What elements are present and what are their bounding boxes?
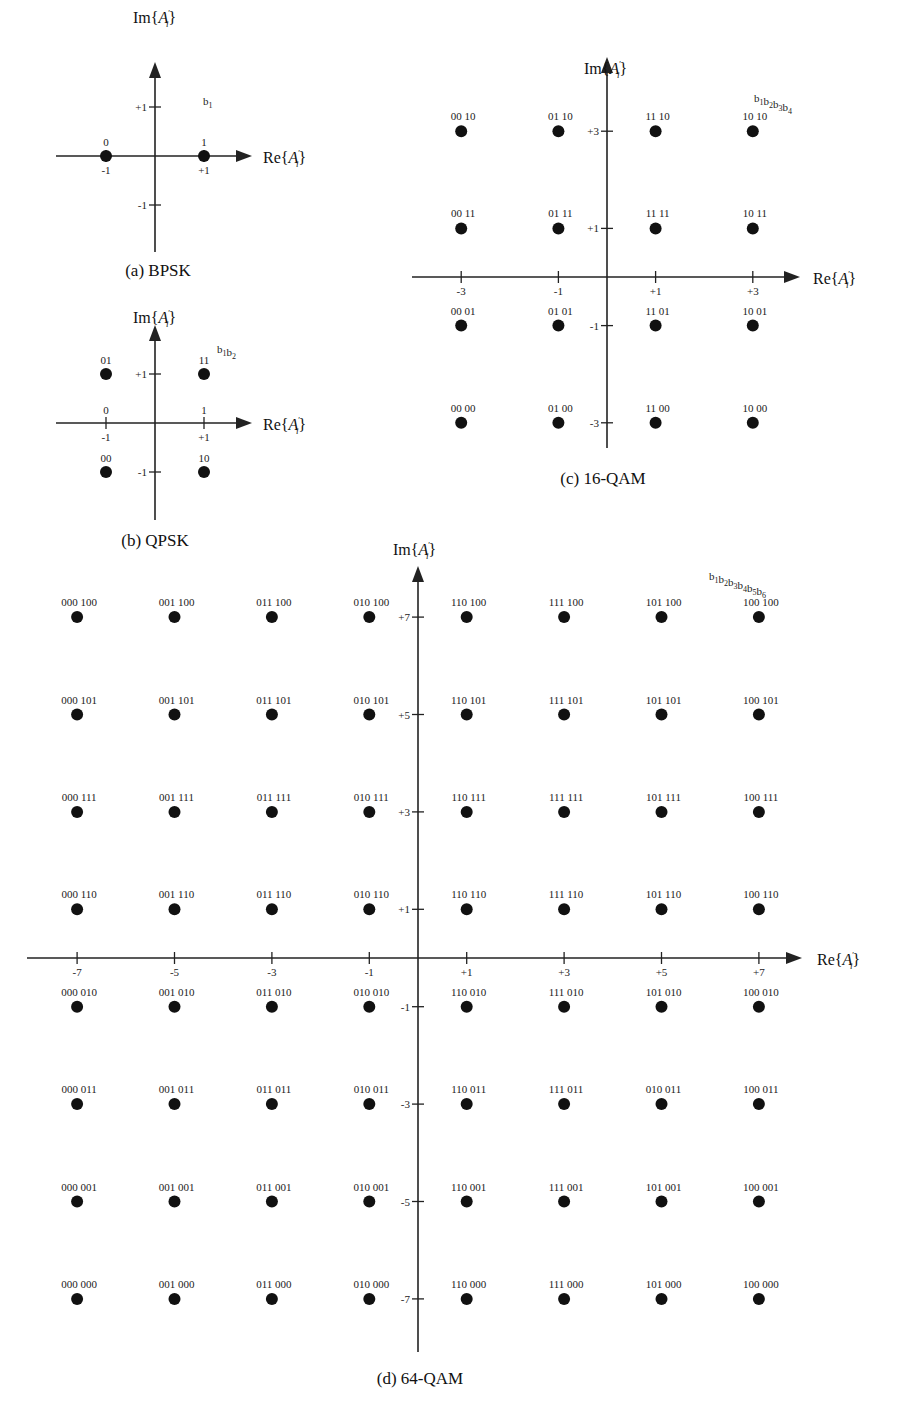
point-label: 110 110 bbox=[451, 888, 486, 900]
point-label: 111 001 bbox=[549, 1181, 584, 1193]
constellation-point bbox=[169, 1001, 181, 1013]
point-label: 01 11 bbox=[548, 207, 572, 219]
point-label: 11 00 bbox=[645, 402, 670, 414]
svg-text:Re{A′i}: Re{A′i} bbox=[263, 149, 306, 169]
point-label: 110 011 bbox=[451, 1083, 486, 1095]
constellation-point bbox=[461, 903, 473, 915]
x-tick-label: -1 bbox=[365, 966, 374, 978]
point-label: 111 011 bbox=[549, 1083, 584, 1095]
y-tick-label: +7 bbox=[398, 611, 410, 623]
constellation-point bbox=[71, 806, 83, 818]
constellation-point bbox=[461, 709, 473, 721]
constellation-point bbox=[266, 1293, 278, 1305]
x-tick-label: +3 bbox=[558, 966, 570, 978]
y-tick-label: -7 bbox=[401, 1293, 411, 1305]
point-label: 10 01 bbox=[742, 305, 767, 317]
y-axis-label: Im{A′i} bbox=[393, 541, 436, 561]
point-label: 101 101 bbox=[646, 694, 682, 706]
constellation-point bbox=[552, 222, 564, 234]
constellation-point bbox=[455, 222, 467, 234]
x-axis-arrow-icon bbox=[236, 150, 252, 162]
svg-text:b1b2: b1b2 bbox=[217, 343, 236, 361]
point-label: 111 000 bbox=[549, 1278, 584, 1290]
constellation-point bbox=[650, 417, 662, 429]
axis-bit-label: 1 bbox=[201, 404, 207, 416]
constellation-point bbox=[363, 903, 375, 915]
x-tick-label: +7 bbox=[753, 966, 765, 978]
point-label: 101 010 bbox=[646, 986, 682, 998]
point-label: 000 111 bbox=[62, 791, 97, 803]
y-tick-label: -1 bbox=[401, 1001, 410, 1013]
point-label: 011 110 bbox=[256, 888, 291, 900]
point-label: 111 110 bbox=[549, 888, 584, 900]
point-label: 000 001 bbox=[61, 1181, 97, 1193]
point-label: 101 111 bbox=[646, 791, 681, 803]
constellation-point bbox=[71, 1098, 83, 1110]
x-tick-label: +1 bbox=[198, 431, 210, 443]
x-tick-label: +3 bbox=[747, 285, 759, 297]
point-label: 110 001 bbox=[451, 1181, 486, 1193]
constellation-point bbox=[363, 1001, 375, 1013]
figure-caption: (a) BPSK bbox=[125, 261, 191, 280]
constellation-point bbox=[266, 1001, 278, 1013]
constellation-point bbox=[753, 903, 765, 915]
figure-caption: (d) 64-QAM bbox=[377, 1369, 463, 1388]
bit-order-label: b1 bbox=[203, 95, 213, 110]
y-tick-label: -5 bbox=[401, 1196, 411, 1208]
constellation-point bbox=[747, 125, 759, 137]
y-axis-arrow-icon bbox=[149, 62, 161, 78]
point-label: 001 110 bbox=[159, 888, 195, 900]
point-label: 100 110 bbox=[743, 888, 779, 900]
point-label: 01 00 bbox=[548, 402, 573, 414]
point-label: 100 000 bbox=[743, 1278, 779, 1290]
x-axis-label: Re{A′i} bbox=[817, 951, 860, 971]
y-tick-label: +1 bbox=[398, 903, 410, 915]
constellation-point bbox=[71, 1196, 83, 1208]
y-tick-label: -3 bbox=[590, 417, 600, 429]
constellation-point bbox=[363, 1098, 375, 1110]
constellation-point bbox=[71, 1001, 83, 1013]
constellation-point bbox=[650, 125, 662, 137]
point-label: 11 10 bbox=[645, 110, 670, 122]
point-label: 10 10 bbox=[742, 110, 767, 122]
svg-text:Im{A′i}: Im{A′i} bbox=[584, 60, 627, 80]
constellation-point bbox=[266, 1098, 278, 1110]
constellation-point bbox=[169, 709, 181, 721]
point-label: 000 010 bbox=[61, 986, 97, 998]
constellation-point bbox=[461, 1098, 473, 1110]
x-axis-arrow-icon bbox=[784, 271, 800, 283]
panel-bpsk: Im{A′i}Re{A′i}b1-1+1+1-101(a) BPSK bbox=[56, 9, 306, 280]
y-tick-label: +5 bbox=[398, 709, 410, 721]
constellation-point bbox=[71, 903, 83, 915]
point-label: 00 bbox=[101, 452, 113, 464]
constellation-point bbox=[455, 125, 467, 137]
point-label: 000 101 bbox=[61, 694, 97, 706]
point-label: 001 101 bbox=[159, 694, 195, 706]
point-label: 00 01 bbox=[451, 305, 476, 317]
constellation-point bbox=[169, 1098, 181, 1110]
x-tick-label: +1 bbox=[650, 285, 662, 297]
figure-caption: (c) 16-QAM bbox=[560, 469, 645, 488]
constellation-point bbox=[363, 611, 375, 623]
constellation-point bbox=[71, 611, 83, 623]
constellation-point bbox=[753, 1196, 765, 1208]
constellation-point bbox=[455, 417, 467, 429]
point-label: 110 000 bbox=[451, 1278, 487, 1290]
point-label: 010 100 bbox=[353, 596, 389, 608]
point-label: 001 100 bbox=[159, 596, 195, 608]
point-label: 01 bbox=[101, 354, 112, 366]
point-label: 100 101 bbox=[743, 694, 779, 706]
point-label: 101 001 bbox=[646, 1181, 682, 1193]
y-tick-label: -1 bbox=[590, 320, 599, 332]
point-label: 110 101 bbox=[451, 694, 486, 706]
constellation-point bbox=[461, 806, 473, 818]
point-label: 01 01 bbox=[548, 305, 573, 317]
point-label: 001 010 bbox=[159, 986, 195, 998]
svg-text:Im{A′i}: Im{A′i} bbox=[133, 9, 176, 29]
constellation-point bbox=[100, 150, 112, 162]
constellation-point bbox=[100, 466, 112, 478]
constellation-point bbox=[650, 222, 662, 234]
constellation-point bbox=[656, 611, 668, 623]
x-tick-label: +1 bbox=[198, 164, 210, 176]
point-label: 011 000 bbox=[256, 1278, 292, 1290]
